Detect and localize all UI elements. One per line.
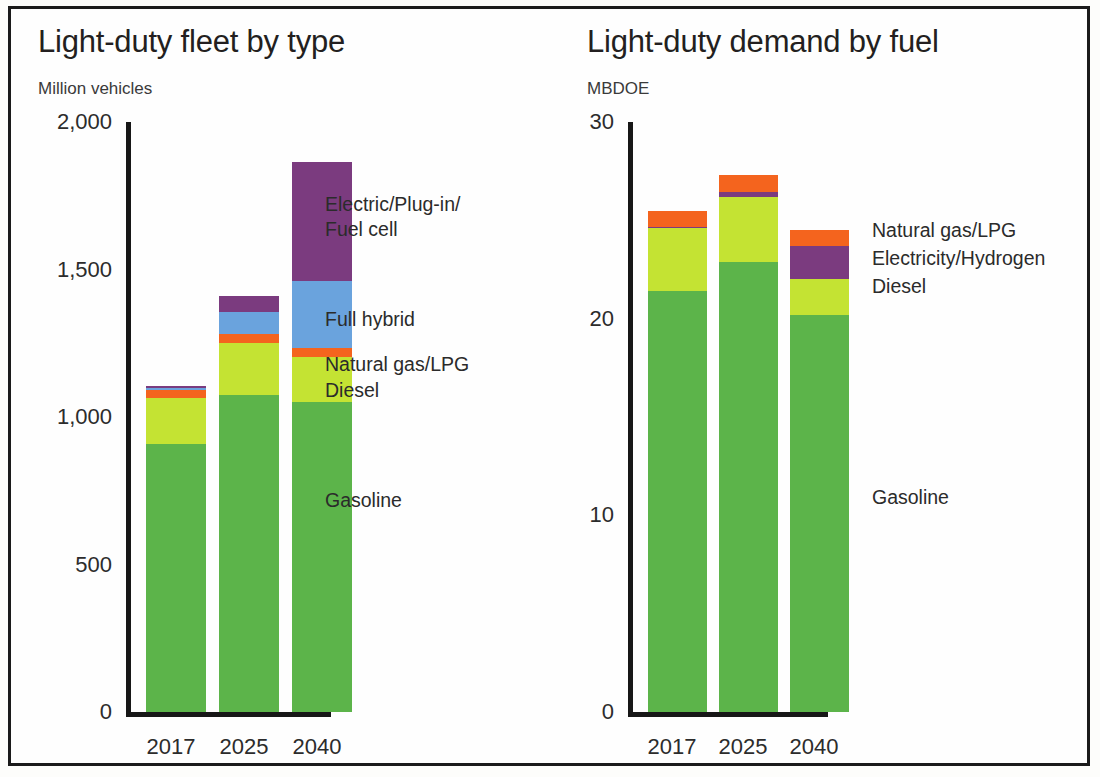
bar-segment-diesel: [219, 343, 279, 395]
bar-segment-full-hybrid: [219, 312, 279, 334]
bar-segment-gasoline: [219, 395, 279, 712]
left-ytick-1000: 1,000: [57, 404, 112, 430]
left-legend-natural-gas: Natural gas/LPG: [325, 352, 469, 377]
left-chart-panel: Light-duty fleet by type Million vehicle…: [0, 0, 560, 777]
right-legend-diesel: Diesel: [872, 274, 926, 299]
bar-segment-electricity-hydrogen: [790, 246, 849, 279]
right-ytick-30: 30: [590, 109, 614, 135]
left-bar-group: [131, 122, 326, 712]
right-legend-natural-gas: Natural gas/LPG: [872, 218, 1016, 243]
bar-segment-natural-gas-lpg: [648, 211, 707, 228]
bar-2025: [219, 296, 279, 712]
right-xtick-2025: 2025: [719, 734, 768, 760]
left-chart-subtitle: Million vehicles: [38, 79, 152, 99]
bar-segment-diesel: [790, 279, 849, 314]
right-bar-group: [633, 122, 824, 712]
left-legend-electric: Electric/Plug-in/ Fuel cell: [325, 192, 460, 242]
left-ytick-0: 0: [100, 699, 112, 725]
right-chart-panel: Light-duty demand by fuel MBDOE 30 20 10…: [552, 0, 1100, 777]
left-legend-full-hybrid: Full hybrid: [325, 307, 415, 332]
left-xtick-2017: 2017: [147, 734, 196, 760]
bar-2040: [292, 162, 352, 712]
bar-segment-natural-gas-lpg: [790, 230, 849, 246]
bar-segment-natural-gas-lpg: [219, 334, 279, 343]
left-ytick-1500: 1,500: [57, 257, 112, 283]
left-legend-gasoline: Gasoline: [325, 488, 402, 513]
bar-segment-diesel: [146, 398, 206, 444]
right-legend-gasoline: Gasoline: [872, 485, 949, 510]
bar-segment-gasoline: [719, 262, 778, 712]
bar-segment-gasoline: [648, 291, 707, 712]
right-plot-area: 30 20 10 0 2017 2025 2040: [628, 122, 824, 712]
right-xtick-2017: 2017: [648, 734, 697, 760]
bar-segment-natural-gas-lpg: [146, 390, 206, 397]
right-ytick-20: 20: [590, 306, 614, 332]
right-chart-subtitle: MBDOE: [587, 79, 649, 99]
left-x-axis: [126, 712, 331, 717]
bar-2025: [719, 175, 778, 712]
right-xtick-2040: 2040: [790, 734, 839, 760]
left-legend-diesel: Diesel: [325, 378, 379, 403]
left-plot-area: 2,000 1,500 1,000 500 0 2017 2025 2040: [126, 122, 326, 712]
chart-page: Light-duty fleet by type Million vehicle…: [0, 0, 1100, 777]
bar-segment-electric-plug-in-fuel-cell: [219, 296, 279, 312]
bar-segment-natural-gas-lpg: [719, 175, 778, 192]
bar-segment-diesel: [719, 197, 778, 262]
right-ytick-0: 0: [602, 699, 614, 725]
right-legend-electricity: Electricity/Hydrogen: [872, 246, 1045, 271]
left-ytick-2000: 2,000: [57, 109, 112, 135]
bar-segment-gasoline: [146, 444, 206, 712]
bar-2017: [648, 211, 707, 713]
bar-2017: [146, 386, 206, 712]
bar-segment-diesel: [648, 228, 707, 291]
right-chart-title: Light-duty demand by fuel: [587, 24, 939, 60]
left-ytick-500: 500: [75, 552, 112, 578]
right-ytick-10: 10: [590, 502, 614, 528]
bar-segment-gasoline: [292, 402, 352, 712]
left-xtick-2025: 2025: [220, 734, 269, 760]
left-chart-title: Light-duty fleet by type: [38, 24, 345, 60]
bar-segment-gasoline: [790, 315, 849, 712]
left-xtick-2040: 2040: [293, 734, 342, 760]
right-x-axis: [628, 712, 828, 717]
bar-2040: [790, 230, 849, 712]
